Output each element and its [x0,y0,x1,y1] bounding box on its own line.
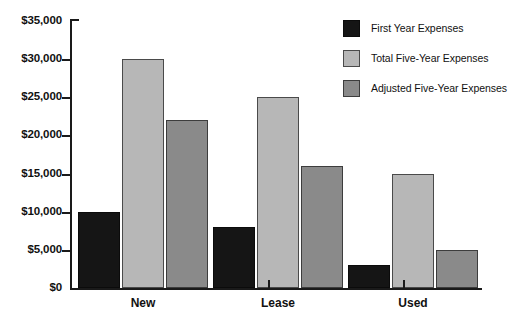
y-axis-tick [62,250,70,252]
y-axis-tick-label: $15,000 [21,167,62,179]
y-axis-tick-label: $20,000 [21,128,62,140]
legend-label: Total Five-Year Expenses [371,52,488,64]
y-axis-tick-label: $0 [49,281,62,293]
y-axis-tick-label: $10,000 [21,205,62,217]
y-axis-tick [62,59,70,61]
y-axis-tick-label: $35,000 [21,14,62,26]
y-axis-tick-label: $30,000 [21,52,62,64]
x-axis-line [70,288,482,290]
legend-swatch-icon [343,20,360,37]
x-axis-label-lease: Lease [213,296,343,310]
y-axis-labels: $0$5,000$10,000$15,000$20,000$25,000$30,… [0,0,62,317]
group-separator-tick [403,280,405,288]
y-axis-tick [62,212,70,214]
bar-new-series2 [166,120,208,288]
chart-legend: First Year ExpensesTotal Five-Year Expen… [343,13,507,103]
legend-item: First Year Expenses [343,13,507,43]
x-axis-label-new: New [78,296,208,310]
y-axis-tick-label: $25,000 [21,90,62,102]
legend-label: First Year Expenses [371,22,463,34]
bar-used-series0 [348,265,390,288]
legend-label: Adjusted Five-Year Expenses [371,82,507,94]
bar-chart: $0$5,000$10,000$15,000$20,000$25,000$30,… [0,0,511,317]
bar-used-series2 [436,250,478,288]
legend-swatch-icon [343,80,360,97]
legend-item: Adjusted Five-Year Expenses [343,73,507,103]
legend-item: Total Five-Year Expenses [343,43,507,73]
bar-used-series1 [392,174,434,288]
y-axis-tick-label: $5,000 [27,243,62,255]
group-separator-tick [268,280,270,288]
legend-swatch-icon [343,50,360,67]
y-axis-tick [62,97,70,99]
bar-lease-series1 [257,97,299,288]
bar-new-series0 [78,212,120,288]
bar-lease-series2 [301,166,343,288]
y-axis-tick [62,135,70,137]
bar-new-series1 [122,59,164,288]
bar-lease-series0 [213,227,255,288]
y-axis-tick [62,174,70,176]
x-axis-label-used: Used [348,296,478,310]
